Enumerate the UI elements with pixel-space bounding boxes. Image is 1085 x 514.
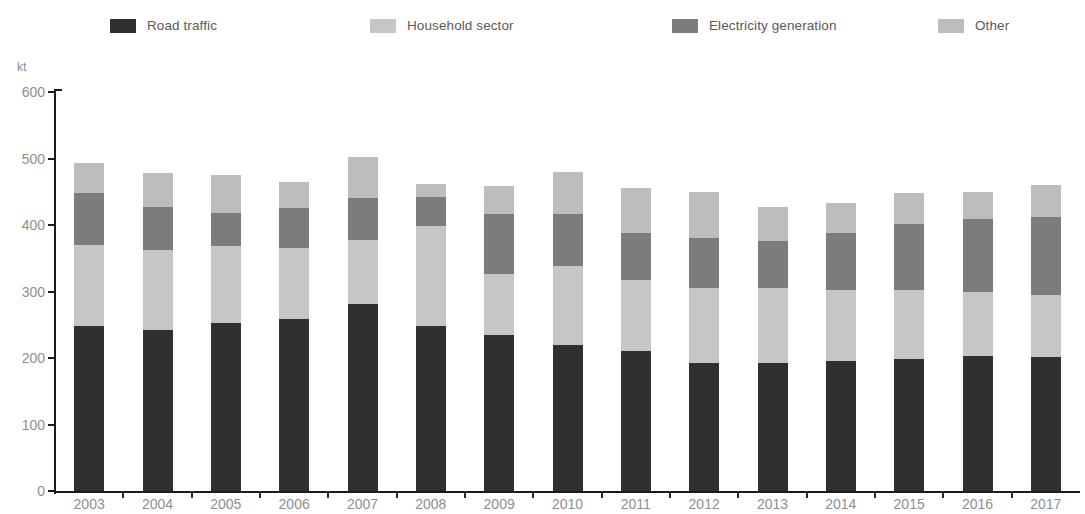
bar-2011[interactable]: [621, 188, 651, 491]
bar-segment-road-traffic: [894, 359, 924, 491]
y-axis-tick-label: 400: [22, 217, 45, 233]
x-axis-tick: [532, 491, 534, 498]
bar-segment-household-sector: [689, 288, 719, 363]
bar-segment-road-traffic: [621, 351, 651, 491]
x-axis-tick: [191, 491, 193, 498]
y-axis-tick-label: 500: [22, 151, 45, 167]
legend-label: Household sector: [407, 19, 514, 33]
x-axis-label-2015: 2015: [879, 496, 939, 512]
y-axis-tick-label: 100: [22, 417, 45, 433]
bar-2014[interactable]: [826, 203, 856, 491]
legend-item-household-sector[interactable]: Household sector: [370, 18, 514, 34]
bar-2003[interactable]: [74, 163, 104, 491]
bar-2006[interactable]: [279, 182, 309, 491]
plot-area: 0100200300400500600 20032004200520062007…: [55, 92, 1080, 491]
bar-segment-road-traffic: [1031, 357, 1061, 491]
bar-segment-household-sector: [74, 245, 104, 326]
y-axis-tick: [48, 158, 55, 160]
bar-segment-other: [1031, 185, 1061, 217]
bar-segment-other: [826, 203, 856, 233]
bar-segment-road-traffic: [826, 361, 856, 491]
legend-item-electricity-generation[interactable]: Electricity generation: [672, 18, 837, 34]
x-axis-label-2006: 2006: [264, 496, 324, 512]
bar-segment-electricity-generation: [553, 214, 583, 266]
bar-segment-road-traffic: [279, 319, 309, 491]
bar-segment-road-traffic: [484, 335, 514, 491]
chart-legend: Road trafficHousehold sectorElectricity …: [0, 0, 1085, 48]
x-axis-tick: [122, 491, 124, 498]
bar-segment-electricity-generation: [484, 214, 514, 274]
bar-segment-electricity-generation: [826, 233, 856, 290]
bar-segment-road-traffic: [416, 326, 446, 491]
bar-segment-electricity-generation: [416, 197, 446, 226]
bar-2012[interactable]: [689, 192, 719, 491]
y-axis-tick-label: 200: [22, 350, 45, 366]
bar-segment-other: [211, 175, 241, 213]
legend-item-road-traffic[interactable]: Road traffic: [110, 18, 217, 34]
legend-item-other[interactable]: Other: [938, 18, 1009, 34]
y-axis-top-cap: [54, 89, 62, 91]
bar-segment-other: [74, 163, 104, 193]
bar-segment-other: [553, 172, 583, 215]
bar-segment-road-traffic: [758, 363, 788, 491]
y-axis-tick: [48, 490, 55, 492]
bar-segment-household-sector: [621, 280, 651, 352]
x-axis-tick: [942, 491, 944, 498]
x-axis-tick: [737, 491, 739, 498]
bar-2016[interactable]: [963, 192, 993, 491]
legend-swatch-icon: [370, 19, 396, 33]
bar-2008[interactable]: [416, 184, 446, 491]
legend-label: Road traffic: [147, 19, 217, 33]
bar-segment-household-sector: [826, 290, 856, 362]
bar-segment-household-sector: [894, 290, 924, 359]
bar-2007[interactable]: [348, 157, 378, 491]
x-axis-label-2004: 2004: [128, 496, 188, 512]
legend-swatch-icon: [938, 19, 964, 33]
y-axis-tick-label: 600: [22, 84, 45, 100]
bar-2004[interactable]: [143, 173, 173, 492]
bar-segment-road-traffic: [689, 363, 719, 491]
bar-segment-other: [416, 184, 446, 197]
bar-segment-electricity-generation: [348, 198, 378, 240]
bar-2009[interactable]: [484, 186, 514, 491]
bar-segment-household-sector: [211, 246, 241, 323]
bar-segment-electricity-generation: [689, 238, 719, 288]
x-axis-label-2009: 2009: [469, 496, 529, 512]
y-axis-tick-label: 300: [22, 284, 45, 300]
bar-segment-other: [484, 186, 514, 215]
bar-segment-other: [621, 188, 651, 233]
x-axis-label-2008: 2008: [401, 496, 461, 512]
bar-segment-electricity-generation: [758, 241, 788, 288]
x-axis-tick: [327, 491, 329, 498]
bar-segment-other: [894, 193, 924, 224]
x-axis-label-2013: 2013: [743, 496, 803, 512]
bar-segment-electricity-generation: [894, 224, 924, 291]
x-axis-label-2014: 2014: [811, 496, 871, 512]
x-axis-label-2012: 2012: [674, 496, 734, 512]
x-axis-tick: [874, 491, 876, 498]
bar-segment-other: [689, 192, 719, 239]
x-axis-line: [54, 491, 1080, 493]
x-axis-tick: [669, 491, 671, 498]
bar-2013[interactable]: [758, 207, 788, 491]
bar-segment-other: [143, 173, 173, 208]
bar-segment-road-traffic: [553, 345, 583, 491]
bar-2005[interactable]: [211, 175, 241, 491]
x-axis-tick: [601, 491, 603, 498]
bar-2015[interactable]: [894, 193, 924, 491]
x-axis-tick: [396, 491, 398, 498]
bar-segment-electricity-generation: [143, 207, 173, 250]
bar-segment-household-sector: [1031, 295, 1061, 357]
bar-segment-household-sector: [348, 240, 378, 305]
bar-segment-household-sector: [484, 274, 514, 335]
x-axis-label-2017: 2017: [1016, 496, 1076, 512]
y-axis-tick: [48, 291, 55, 293]
bar-2017[interactable]: [1031, 185, 1061, 491]
bar-segment-electricity-generation: [74, 193, 104, 245]
x-axis-label-2003: 2003: [59, 496, 119, 512]
y-axis-tick: [48, 424, 55, 426]
x-axis-tick: [259, 491, 261, 498]
bar-segment-household-sector: [143, 250, 173, 330]
bar-2010[interactable]: [553, 172, 583, 491]
bar-segment-electricity-generation: [963, 219, 993, 292]
